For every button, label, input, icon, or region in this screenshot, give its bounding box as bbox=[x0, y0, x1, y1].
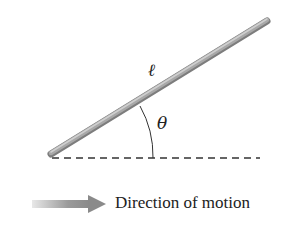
angle-arc-icon bbox=[140, 106, 153, 158]
direction-of-motion-label: Direction of motion bbox=[115, 193, 250, 213]
inclined-rod-icon bbox=[51, 19, 267, 154]
right-arrow-icon bbox=[32, 195, 106, 213]
diagram-canvas: ℓ θ Direction of motion bbox=[0, 0, 302, 227]
rod-length-label: ℓ bbox=[148, 60, 155, 81]
angle-label: θ bbox=[157, 113, 167, 133]
